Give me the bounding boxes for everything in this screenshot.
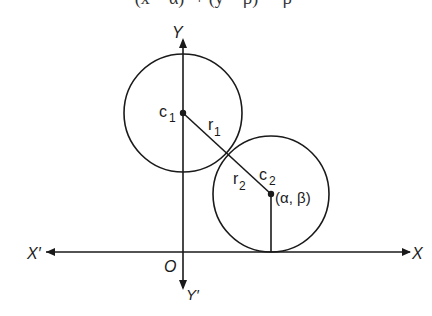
c2-coordinates-label: (α, β)	[275, 189, 311, 206]
center-c2-dot	[268, 191, 274, 197]
svg-text:1: 1	[214, 125, 221, 139]
svg-text:2: 2	[269, 174, 276, 188]
r1-label: r 1	[208, 116, 221, 139]
y-axis-label: Y	[172, 24, 184, 41]
r2-label: r 2	[233, 170, 246, 193]
center-connecting-line	[183, 113, 271, 194]
svg-text:1: 1	[169, 111, 176, 125]
two-tangent-circles-diagram: Y Y′ X X′ O c 1 r 1 r 2 c 2 (α, β)	[0, 0, 432, 316]
svg-text:2: 2	[239, 179, 246, 193]
svg-text:c: c	[159, 103, 167, 120]
x-prime-arrow-icon	[46, 248, 55, 256]
x-axis-label: X	[411, 245, 424, 262]
c1-label: c 1	[159, 103, 176, 125]
x-axis	[46, 248, 410, 256]
x-prime-label: X′	[26, 245, 42, 262]
origin-label: O	[164, 258, 176, 275]
svg-text:c: c	[259, 166, 267, 183]
y-prime-label: Y′	[186, 286, 200, 303]
center-c1-dot	[180, 110, 186, 116]
